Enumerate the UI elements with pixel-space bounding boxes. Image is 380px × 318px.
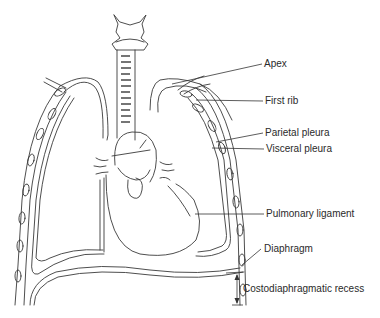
heart xyxy=(94,132,200,256)
pleura-diagram xyxy=(0,0,380,318)
left-lung-pleura xyxy=(150,76,246,305)
trachea xyxy=(117,50,135,140)
label-parietal-pleura: Parietal pleura xyxy=(265,127,329,139)
label-visceral-pleura: Visceral pleura xyxy=(266,143,332,155)
label-pulmonary-ligament: Pulmonary ligament xyxy=(266,208,354,220)
right-lung-pleura xyxy=(15,78,244,305)
label-diaphragm: Diaphragm xyxy=(264,243,313,255)
label-first-rib: First rib xyxy=(265,95,298,107)
leader-lines xyxy=(172,64,264,305)
label-costodiaphragmatic-recess: Costodiaphragmatic recess xyxy=(243,283,364,295)
label-apex: Apex xyxy=(264,58,287,70)
larynx xyxy=(112,15,148,50)
